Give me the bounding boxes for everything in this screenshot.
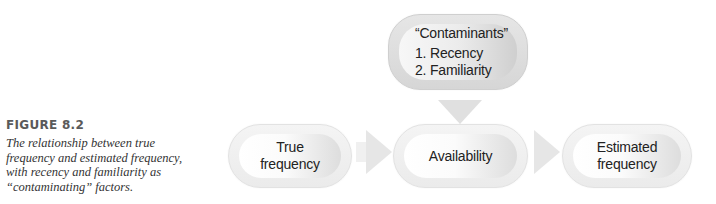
contaminant-recency: 1. Recency [415,45,483,62]
figure-label: FIGURE 8.2 [6,118,206,132]
true-frequency-line1: True [276,139,303,156]
true-frequency-box: True frequency [228,124,352,188]
estimated-frequency-line1: Estimated [597,139,657,156]
figure-caption: FIGURE 8.2 The relationship between true… [6,118,206,194]
contaminants-box: “Contaminants” 1. Recency 2. Familiarity [388,14,528,90]
availability-label: Availability [429,148,493,165]
contaminants-title: “Contaminants” [415,25,508,42]
figure-description: The relationship between true frequency … [6,136,206,194]
estimated-frequency-line2: frequency [597,156,657,173]
arrow-right-icon [534,130,560,174]
arrow-right-icon [366,130,392,174]
estimated-frequency-box: Estimated frequency [562,124,692,188]
true-frequency-line2: frequency [260,156,320,173]
contaminant-familiarity: 2. Familiarity [415,62,492,79]
arrow-down-icon [438,100,482,124]
availability-box: Availability [393,124,528,188]
